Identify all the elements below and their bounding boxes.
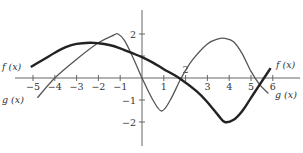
y-tick-label: 2 [130,29,136,40]
x-tick-label: 5 [248,81,254,92]
x-tick-label: 4 [226,81,232,92]
x-tick-label: 3 [204,81,210,92]
x-tick-label: −5 [26,81,40,92]
g-left-label: g (x) [2,94,24,105]
y-tick-label: −2 [122,117,136,128]
g-right-label: g (x) [275,89,297,100]
f-left-label: f (x) [1,61,22,72]
chart: −5−4−3−2−11345622−1−2 f (x) g (x) f (x) … [0,0,303,153]
x-tick-label: −2 [91,81,105,92]
x-tick-label: 1 [161,81,167,92]
f-right-label: f (x) [275,59,296,70]
f-curve [31,43,271,122]
chart-canvas: −5−4−3−2−11345622−1−2 f (x) g (x) f (x) … [0,0,303,153]
x-tick-label: −1 [113,81,127,92]
y-tick-label: −1 [122,95,136,106]
axes [15,10,300,146]
x-tick-label: −3 [70,81,84,92]
